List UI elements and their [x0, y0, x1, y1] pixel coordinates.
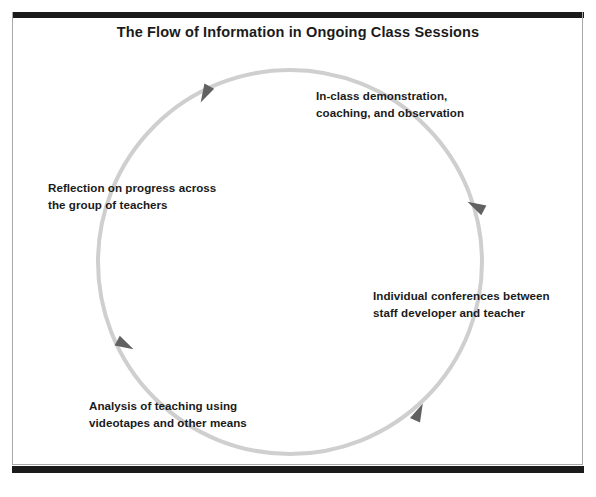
figure-container: The Flow of Information in Ongoing Class… [0, 0, 596, 497]
node-label-reflection-on-progress: Reflection on progress across the group … [48, 180, 216, 214]
node-label-analysis-of-teaching: Analysis of teaching using videotapes an… [89, 398, 247, 432]
arrow-bottom-left-icon [115, 336, 136, 354]
node-label-individual-conferences: Individual conferences between staff dev… [373, 288, 550, 322]
node-label-in-class-demonstration: In-class demonstration, coaching, and ob… [316, 88, 464, 122]
cycle-ring [98, 70, 482, 454]
